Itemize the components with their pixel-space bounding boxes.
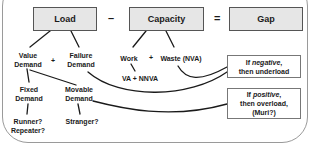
movable-examples-label: Stranger? bbox=[64, 117, 100, 126]
gap-label: Gap bbox=[257, 14, 275, 24]
fixed-examples-label: Runner? Repeater? bbox=[8, 117, 48, 135]
connector-movable-positive bbox=[93, 101, 227, 112]
capacity-plus: + bbox=[149, 54, 153, 61]
load-box: Load bbox=[33, 7, 97, 31]
connector-capacity-work bbox=[133, 31, 146, 47]
gap-box: Gap bbox=[229, 7, 303, 31]
capacity-label: Capacity bbox=[148, 14, 186, 24]
connector-waste-negative bbox=[178, 66, 227, 77]
capacity-box: Capacity bbox=[129, 7, 204, 31]
minus-operator: – bbox=[108, 12, 114, 24]
movable-demand-label: Movable Demand bbox=[62, 85, 96, 103]
connector-load-failure bbox=[71, 31, 79, 47]
connector-value-fixed bbox=[27, 69, 29, 82]
waste-label: Waste (NVA) bbox=[158, 54, 204, 63]
failure-demand-label: Failure Demand bbox=[62, 51, 100, 69]
load-label: Load bbox=[54, 14, 76, 24]
negative-keyword: negative bbox=[252, 59, 280, 66]
positive-gap-note: If positive, then overload, (Muri?) bbox=[227, 88, 301, 119]
connector-capacity-waste bbox=[166, 31, 174, 47]
connector-fixed-runner bbox=[27, 104, 28, 114]
load-plus: + bbox=[51, 57, 55, 64]
negative-gap-note: If negative, then underload bbox=[227, 55, 301, 78]
connector-work-detail bbox=[131, 64, 135, 71]
positive-keyword: positive bbox=[253, 91, 279, 98]
work-label: Work bbox=[117, 54, 141, 63]
work-detail-label: VA + NNVA bbox=[120, 74, 160, 83]
equals-operator: = bbox=[214, 12, 220, 24]
value-demand-label: Value Demand bbox=[10, 51, 46, 69]
connector-movable-stranger bbox=[78, 104, 80, 114]
fixed-demand-label: Fixed Demand bbox=[10, 85, 48, 103]
connector-load-value bbox=[30, 31, 50, 47]
connector-value-movable bbox=[30, 70, 76, 85]
